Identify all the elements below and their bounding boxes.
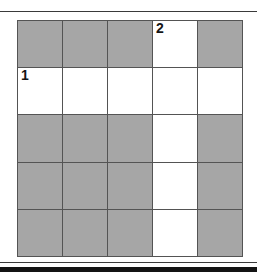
grid-cell-r4c3 — [108, 162, 153, 209]
grid-cell-r1c1 — [18, 21, 63, 68]
bottom-thick-horizontal-rule — [0, 267, 257, 272]
grid-cell-r5c4 — [153, 209, 198, 256]
grid-cell-r2c2 — [63, 68, 108, 115]
cell-label-1: 1 — [21, 68, 29, 83]
grid-cell-r4c2 — [63, 162, 108, 209]
grid-row — [18, 162, 243, 209]
grid-diagram: 2 1 — [17, 20, 243, 257]
grid-cell-r5c3 — [108, 209, 153, 256]
grid-row — [18, 115, 243, 162]
grid-cell-r3c5 — [198, 115, 243, 162]
grid-cell-r1c5 — [198, 21, 243, 68]
grid-cell-r2c3 — [108, 68, 153, 115]
grid-row: 1 — [18, 68, 243, 115]
grid-cell-r3c3 — [108, 115, 153, 162]
grid-cell-r3c4 — [153, 115, 198, 162]
grid-cell-r1c4: 2 — [153, 21, 198, 68]
grid-body: 2 1 — [18, 21, 243, 257]
grid-table: 2 1 — [17, 20, 243, 257]
grid-cell-r2c1: 1 — [18, 68, 63, 115]
top-horizontal-rule — [0, 11, 257, 12]
grid-cell-r5c5 — [198, 209, 243, 256]
grid-cell-r1c3 — [108, 21, 153, 68]
grid-row: 2 — [18, 21, 243, 68]
grid-row — [18, 209, 243, 256]
grid-cell-r3c1 — [18, 115, 63, 162]
grid-cell-r1c2 — [63, 21, 108, 68]
grid-cell-r2c4 — [153, 68, 198, 115]
grid-cell-r4c4 — [153, 162, 198, 209]
grid-cell-r2c5 — [198, 68, 243, 115]
grid-cell-r3c2 — [63, 115, 108, 162]
grid-cell-r5c1 — [18, 209, 63, 256]
grid-cell-r4c1 — [18, 162, 63, 209]
grid-cell-r5c2 — [63, 209, 108, 256]
grid-cell-r4c5 — [198, 162, 243, 209]
bottom-thin-horizontal-rule — [0, 262, 257, 263]
cell-label-2: 2 — [156, 21, 164, 36]
